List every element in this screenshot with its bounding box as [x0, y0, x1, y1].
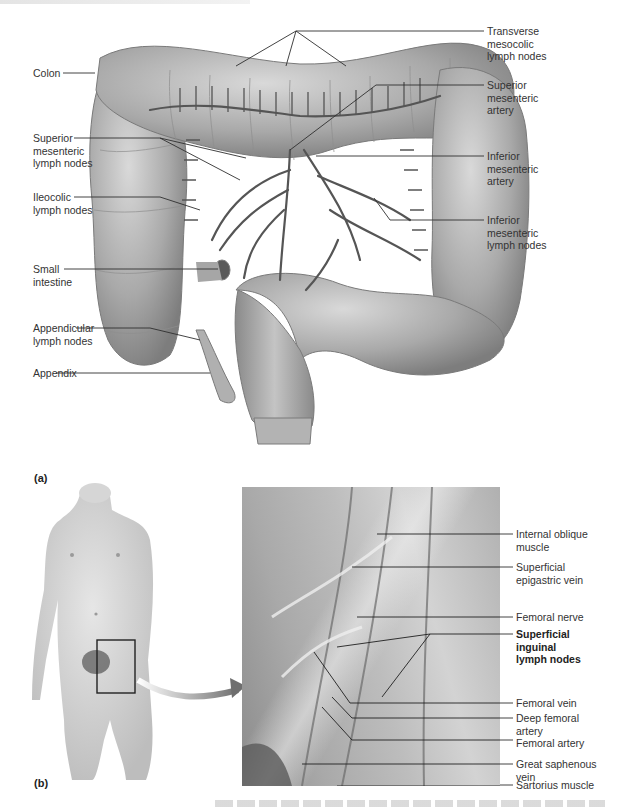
label-superficial-inguinal-lymph-nodes: Superficial inguinal lymph nodes — [516, 628, 581, 666]
colon-illustration — [90, 43, 529, 444]
label-sartorius-muscle: Sartorius muscle — [516, 779, 594, 792]
label-appendix: Appendix — [33, 367, 77, 380]
label-superficial-epigastric-vein: Superficial epigastric vein — [516, 561, 583, 586]
panel-b-tag: (b) — [34, 777, 48, 789]
label-inferior-mesenteric-artery: Inferior mesenteric artery — [487, 150, 538, 188]
label-internal-oblique-muscle: Internal oblique muscle — [516, 528, 588, 553]
label-deep-femoral-artery: Deep femoral artery — [516, 712, 579, 737]
panel-a-tag: (a) — [34, 472, 47, 484]
label-superior-mesenteric-lymph-nodes: Superior mesenteric lymph nodes — [33, 132, 93, 170]
label-femoral-vein: Femoral vein — [516, 697, 577, 710]
caption-cutoff — [215, 800, 605, 807]
label-appendicular-lymph-nodes: Appendicular lymph nodes — [33, 322, 94, 347]
label-inferior-mesenteric-lymph-nodes: Inferior mesenteric lymph nodes — [487, 214, 547, 252]
label-transverse-mesocolic-lymph-nodes: Transverse mesocolic lymph nodes — [487, 25, 547, 63]
label-small-intestine: Small intestine — [33, 263, 72, 288]
label-femoral-nerve: Femoral nerve — [516, 611, 584, 624]
body-figure — [32, 483, 246, 780]
dissection-photo — [242, 487, 500, 786]
label-femoral-artery: Femoral artery — [516, 737, 584, 750]
label-ileocolic-lymph-nodes: Ileocolic lymph nodes — [33, 191, 93, 216]
label-superior-mesenteric-artery: Superior mesenteric artery — [487, 79, 538, 117]
label-colon: Colon — [33, 67, 60, 80]
